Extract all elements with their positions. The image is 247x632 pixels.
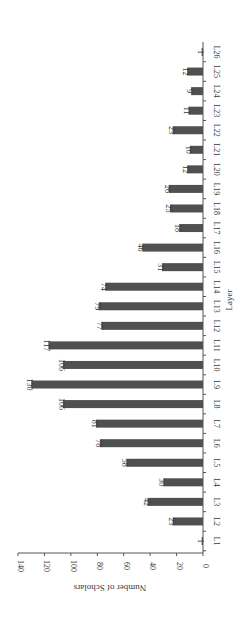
bar-l6	[100, 439, 203, 447]
category-label-l20: L20	[212, 163, 221, 176]
data-label-l25: 12	[181, 68, 190, 76]
data-label-l15: 31	[156, 263, 165, 271]
category-label-l24: L24	[212, 85, 221, 98]
category-label-l25: L25	[212, 65, 221, 78]
data-label-l14: 74	[99, 283, 108, 291]
bar-l16	[142, 244, 203, 252]
category-labels-group: L1L2L3L4L5L6L7L8L9L10L11L12L13L14L15L16L…	[212, 46, 221, 546]
bar-l9	[31, 381, 203, 389]
category-label-l11: L11	[212, 339, 221, 352]
bar-l14	[105, 283, 203, 291]
category-label-l18: L18	[212, 202, 221, 215]
data-label-l10: 106	[57, 359, 66, 371]
category-label-l10: L10	[212, 359, 221, 372]
data-label-l22: 23	[167, 126, 176, 134]
value-tick-label: 0	[201, 564, 210, 568]
category-label-l22: L22	[212, 124, 221, 137]
bar-l3	[148, 498, 204, 506]
bar-l7	[96, 420, 203, 428]
category-label-l23: L23	[212, 104, 221, 117]
category-label-l6: L6	[212, 439, 221, 448]
bar-l13	[99, 302, 203, 310]
data-label-l16: 46	[136, 244, 145, 252]
bar-l10	[63, 361, 203, 369]
data-label-l8: 106	[57, 398, 66, 410]
value-tick-label: 80	[95, 562, 104, 570]
data-label-l6: 78	[94, 439, 103, 447]
category-label-l7: L7	[212, 419, 221, 428]
category-label-l19: L19	[212, 182, 221, 195]
category-label-l16: L16	[212, 241, 221, 254]
category-label-l13: L13	[212, 300, 221, 313]
value-tick-label: 100	[69, 560, 78, 572]
value-tick-label: 120	[42, 560, 51, 572]
bar-l15	[162, 263, 203, 271]
bar-l19	[169, 185, 203, 193]
category-label-l3: L3	[212, 497, 221, 506]
data-label-l13: 79	[93, 302, 102, 310]
data-label-l21: 10	[184, 146, 193, 154]
bar-chart: 1234230587881106130106117777974314618252…	[0, 0, 247, 632]
data-label-l3: 42	[142, 498, 151, 506]
value-tick-label: 20	[175, 562, 184, 570]
data-label-l11: 117	[42, 340, 51, 352]
bar-l11	[48, 341, 203, 349]
data-label-l2: 23	[167, 517, 176, 525]
value-tick-label: 140	[16, 560, 25, 572]
data-label-l19: 26	[163, 185, 172, 193]
category-label-l5: L5	[212, 458, 221, 467]
category-label-l8: L8	[212, 400, 221, 409]
category-label-l12: L12	[212, 319, 221, 332]
bar-l12	[101, 322, 203, 330]
data-label-l5: 58	[120, 459, 129, 467]
category-label-l1: L1	[212, 537, 221, 546]
category-label-l15: L15	[212, 261, 221, 274]
bars-group	[31, 48, 203, 545]
category-label-l14: L14	[212, 280, 221, 293]
category-label-l2: L2	[212, 517, 221, 526]
data-label-l17: 18	[173, 224, 182, 232]
category-label-l17: L17	[212, 222, 221, 235]
bar-l22	[173, 126, 203, 134]
y-axis-title: Number of Scholars	[73, 583, 146, 593]
category-label-l4: L4	[212, 478, 221, 487]
bar-l4	[163, 478, 203, 486]
x-axis-title: Layer	[224, 290, 234, 311]
category-label-l26: L26	[212, 46, 221, 59]
value-tick-labels-group: 020406080100120140	[16, 560, 210, 572]
category-label-l9: L9	[212, 380, 221, 389]
data-label-l24: 9	[185, 89, 194, 93]
category-label-l21: L21	[212, 143, 221, 156]
value-tick-label: 40	[148, 562, 157, 570]
bar-l2	[173, 517, 203, 525]
data-label-l18: 25	[164, 204, 173, 212]
data-label-l12: 77	[95, 322, 104, 330]
data-label-l9: 130	[25, 379, 34, 391]
data-label-l4: 30	[157, 478, 166, 486]
data-label-l7: 81	[90, 420, 99, 428]
value-tick-label: 60	[122, 562, 131, 570]
bar-l8	[63, 400, 203, 408]
bar-l5	[126, 459, 203, 467]
data-labels-group: 1234230587881106130106117777974314618252…	[25, 50, 204, 543]
data-label-l20: 12	[181, 165, 190, 173]
bar-l18	[170, 204, 203, 212]
data-label-l23: 11	[182, 107, 191, 115]
